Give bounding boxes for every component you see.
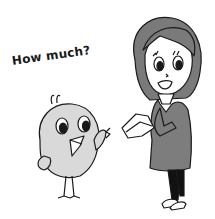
chick-figure [38, 95, 110, 198]
woman-figure [122, 17, 201, 210]
cartoon-scene [0, 0, 215, 219]
illustration: How much? [0, 0, 215, 219]
